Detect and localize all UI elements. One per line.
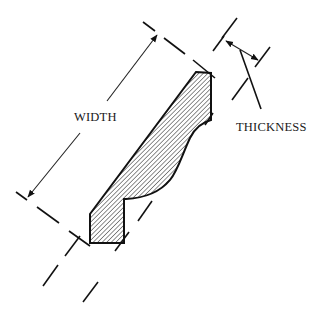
width-extension-line-top [143,22,215,78]
thickness-label: THICKNESS [236,120,307,134]
thickness-extension-lines [222,18,270,100]
back-face-extension-line [43,236,80,286]
width-label: WIDTH [74,110,117,124]
thickness-dimension: THICKNESS [226,41,307,134]
molding-diagram: WIDTH THICKNESS [0,0,317,315]
molding-profile [90,72,211,243]
